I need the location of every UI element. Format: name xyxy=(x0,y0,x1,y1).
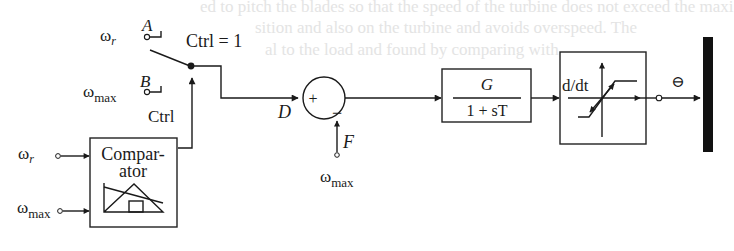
output-section: ⊖ xyxy=(656,37,713,152)
lag-block-numerator: G xyxy=(481,75,493,94)
switch-blade xyxy=(150,50,190,66)
contact-b xyxy=(150,86,161,92)
control-signal-label: Ctrl xyxy=(148,107,175,126)
comparator-title-line2: ator xyxy=(119,161,147,181)
switch-label-b: B xyxy=(140,72,151,91)
derivative-limiter-block: d/dt xyxy=(560,52,656,144)
actuator-bar xyxy=(703,37,713,152)
summer-input-label-d: D xyxy=(277,102,291,122)
derivative-label: d/dt xyxy=(562,76,589,95)
selector-switch: ωr A Ctrl = 1 ωmax B D Ctrl xyxy=(83,16,298,148)
terminal-a xyxy=(144,34,149,39)
switch-condition-label: Ctrl = 1 xyxy=(186,31,242,51)
control-wire xyxy=(178,78,192,148)
feedback-signal: ωmax xyxy=(320,167,354,190)
switch-output-wire xyxy=(193,66,298,98)
feedback-label-f: F xyxy=(342,132,355,152)
lag-block-denominator: 1 + sT xyxy=(466,102,507,119)
comparator-input2-terminal xyxy=(58,209,63,214)
switch-label-a: A xyxy=(141,16,153,35)
output-terminal xyxy=(656,95,662,101)
block-diagram: ωr A Ctrl = 1 ωmax B D Ctrl Compar- ator… xyxy=(0,0,734,251)
comparator-input2-signal: ωmax xyxy=(17,198,51,221)
summing-junction: + − F ωmax xyxy=(303,77,441,190)
comparator-block: Compar- ator ωr ωmax xyxy=(17,138,177,227)
summer-plus-sign: + xyxy=(308,90,317,107)
first-order-lag-block: G 1 + sT xyxy=(442,69,559,122)
switch-input-b-signal: ωmax xyxy=(83,82,117,105)
summer-minus-sign: − xyxy=(332,103,342,123)
comparator-input1-terminal xyxy=(56,154,61,159)
comparator-input1-signal: ωr xyxy=(18,144,34,166)
switch-input-a-signal: ωr xyxy=(100,26,116,48)
output-sign-symbol: ⊖ xyxy=(671,73,684,90)
feedback-terminal xyxy=(335,153,340,158)
